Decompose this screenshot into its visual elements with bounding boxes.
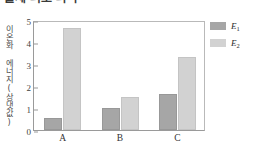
y-axis-label: 이온화 에너지(상댓값) — [1, 20, 16, 132]
legend-label: E2 — [231, 38, 240, 48]
bar-C-E1 — [159, 94, 177, 130]
y-tick-mark — [34, 88, 38, 89]
legend-item-E2[interactable]: E2 — [210, 36, 254, 50]
figure-title-text: 출제 의도 파악 — [4, 0, 124, 5]
y-tick-label: 1 — [27, 105, 32, 115]
legend-swatch-icon — [210, 22, 226, 30]
bar-A-E1 — [44, 118, 62, 130]
y-tick-mark — [34, 110, 38, 111]
chart-legend: E1E2 — [210, 19, 254, 53]
x-tick-label-A: A — [59, 133, 66, 143]
y-tick-label: 4 — [27, 39, 32, 49]
y-tick-label: 2 — [27, 83, 32, 93]
bar-A-E2 — [63, 28, 81, 130]
chart-figure: 출제 의도 파악 이온화 에너지(상댓값) 012345 ABC E1E2 — [0, 0, 256, 151]
y-tick-label: 5 — [27, 17, 32, 27]
bar-B-E1 — [102, 108, 120, 130]
y-tick-mark — [34, 132, 38, 133]
x-tick-label-B: B — [117, 133, 123, 143]
legend-item-E1[interactable]: E1 — [210, 19, 254, 33]
y-tick-label: 3 — [27, 61, 32, 71]
x-tick-label-C: C — [174, 133, 180, 143]
figure-title-clipped: 출제 의도 파악 — [4, 0, 124, 5]
plot-area: 012345 ABC — [33, 21, 205, 131]
legend-swatch-icon — [210, 39, 226, 47]
y-tick-mark — [34, 22, 38, 23]
bar-B-E2 — [121, 97, 139, 130]
legend-label: E1 — [231, 21, 240, 31]
bar-C-E2 — [178, 57, 196, 130]
y-tick-mark — [34, 44, 38, 45]
y-tick-label: 0 — [27, 127, 32, 137]
y-tick-mark — [34, 66, 38, 67]
